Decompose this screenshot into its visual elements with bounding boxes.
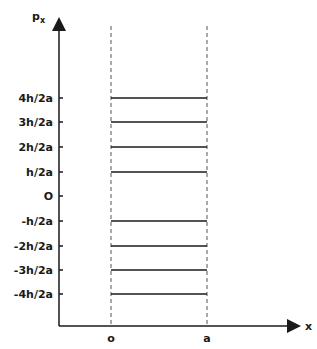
level-neg-1h: -h/2a — [22, 215, 208, 228]
level-neg-4h: -4h/2a — [14, 288, 207, 301]
x-tick-o: o — [107, 332, 115, 345]
level-3h: 3h/2a — [18, 116, 207, 129]
level-zero: O — [44, 190, 63, 203]
level-1h: h/2a — [26, 166, 207, 179]
level-label: -h/2a — [22, 215, 54, 228]
level-label: -3h/2a — [14, 264, 53, 277]
x-tick-a: a — [203, 332, 210, 345]
level-4h: 4h/2a — [18, 92, 207, 105]
x-axis-arrow-icon — [287, 319, 301, 333]
level-label: 3h/2a — [18, 116, 53, 129]
momentum-quantization-diagram: px x o a 4h/2a 3h/2a 2h/2a h/2a O -h/2a — [0, 0, 317, 349]
y-axis-label: px — [32, 10, 46, 25]
level-label: h/2a — [26, 166, 53, 179]
level-2h: 2h/2a — [18, 141, 207, 154]
level-label: 4h/2a — [18, 92, 53, 105]
level-neg-3h: -3h/2a — [14, 264, 207, 277]
level-label: 2h/2a — [18, 141, 53, 154]
level-neg-2h: -2h/2a — [14, 240, 207, 253]
x-axis-label: x — [305, 320, 312, 333]
level-label: -2h/2a — [14, 240, 53, 253]
level-label: -4h/2a — [14, 288, 53, 301]
level-label: O — [44, 190, 53, 203]
y-axis-arrow-icon — [52, 17, 66, 31]
